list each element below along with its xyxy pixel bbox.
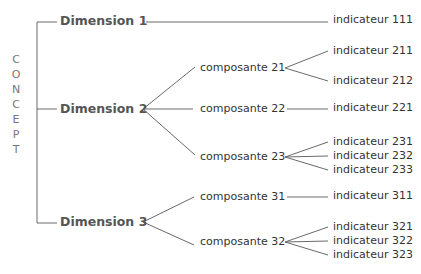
indicator-321-label: indicateur 321 <box>333 220 413 234</box>
link-c23-i232 <box>285 156 328 157</box>
indicator-231-label: indicateur 231 <box>333 135 413 149</box>
link-c32-i322 <box>285 241 328 242</box>
dimension-2-label: Dimension 2 <box>60 102 147 116</box>
indicator-212-label: indicateur 212 <box>333 74 413 88</box>
indicator-233-label: indicateur 233 <box>333 163 413 177</box>
link-c23-i231 <box>285 142 328 157</box>
indicator-311-label: indicateur 311 <box>333 189 413 203</box>
link-c21-i211 <box>285 51 328 68</box>
indicator-211-label: indicateur 211 <box>333 44 413 58</box>
concept-label: C O N C E P T <box>9 52 23 157</box>
link-c32-i321 <box>285 227 328 242</box>
link-d3-c31 <box>143 197 194 222</box>
concept-bracket <box>37 22 57 223</box>
component-32-label: composante 32 <box>200 235 285 249</box>
component-22-label: composante 22 <box>200 102 285 116</box>
concept-letter: N <box>9 82 23 97</box>
indicator-111-label: indicateur 111 <box>333 13 413 27</box>
concept-letter: P <box>9 127 23 142</box>
component-31-label: composante 31 <box>200 190 285 204</box>
indicator-232-label: indicateur 232 <box>333 149 413 163</box>
concept-letter: C <box>9 52 23 67</box>
indicator-221-label: indicateur 221 <box>333 101 413 115</box>
link-d2-c23 <box>143 109 195 155</box>
concept-letter: T <box>9 142 23 157</box>
component-21-label: composante 21 <box>200 61 285 75</box>
concept-letter: O <box>9 67 23 82</box>
component-23-label: composante 23 <box>200 150 285 164</box>
indicator-323-label: indicateur 323 <box>333 248 413 262</box>
link-d3-c32 <box>143 222 194 245</box>
link-c23-i233 <box>285 157 328 170</box>
link-d2-c21 <box>143 67 195 109</box>
link-c32-i323 <box>285 242 328 255</box>
dimension-3-label: Dimension 3 <box>60 215 147 229</box>
concept-letter: C <box>9 97 23 112</box>
dimension-1-label: Dimension 1 <box>60 14 147 28</box>
indicator-322-label: indicateur 322 <box>333 234 413 248</box>
link-c21-i212 <box>285 68 328 81</box>
concept-letter: E <box>9 112 23 127</box>
